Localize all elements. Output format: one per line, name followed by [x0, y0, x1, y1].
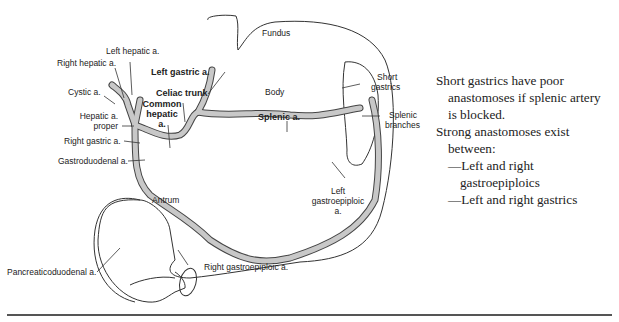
label-celiac-trunk: Celiac trunk [156, 88, 208, 98]
region-label-body: Body [265, 87, 284, 97]
bottom-rule-divider [7, 314, 612, 316]
label-short-gastrics: Short gastrics [371, 72, 400, 92]
label-right-hepatic: Right hepatic a. [57, 58, 116, 68]
clinical-notes: Short gastrics have poor anastomoses if … [436, 72, 619, 208]
label-hepatic-proper: Hepatic a. proper [62, 111, 118, 131]
note-line: between: [436, 140, 619, 157]
label-common-hepatic: Common hepatic a. [138, 99, 186, 129]
label-right-gastric: Right gastric a. [64, 136, 121, 146]
label-splenic-branches: Splenic branches [385, 110, 420, 130]
label-left-gastric: Left gastric a. [151, 67, 210, 77]
note-line: —Left and right [436, 157, 619, 174]
region-label-antrum: Antrum [152, 195, 179, 205]
label-pancreaticoduodenal: Pancreaticoduodenal a. [7, 267, 96, 277]
label-cystic: Cystic a. [68, 87, 101, 97]
label-splenic-artery: Splenic a. [258, 112, 300, 122]
note-line: is blocked. [436, 106, 619, 123]
note-line: Short gastrics have poor [436, 72, 619, 89]
label-gastroduodenal: Gastroduodenal a. [58, 156, 128, 166]
note-line: —Left and right gastrics [436, 191, 619, 208]
duodenum-cut [177, 266, 200, 297]
note-line: Strong anastomoses exist [436, 123, 619, 140]
label-left-hepatic: Left hepatic a. [106, 46, 159, 56]
label-left-gastroepiploic: Left gastroepiploic a. [308, 186, 368, 216]
note-line: gastroepiploics [436, 174, 619, 191]
label-right-gastroepiploic: Right gastroepiploic a. [204, 262, 288, 272]
region-label-fundus: Fundus [262, 28, 290, 38]
note-line: anastomoses if splenic artery [436, 89, 619, 106]
